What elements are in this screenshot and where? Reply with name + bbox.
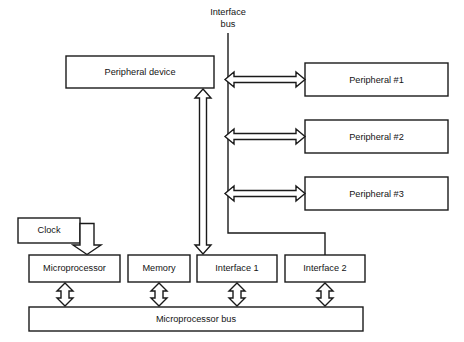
system-block-diagram: Interface bus Peripheral device Peripher… <box>0 0 464 342</box>
arrow-memory-to-bus <box>151 283 167 306</box>
label-memory: Memory <box>142 263 176 273</box>
label-peripheral-device: Peripheral device <box>105 67 176 77</box>
label-peripheral-3: Peripheral #3 <box>349 189 404 199</box>
arrow-peripheral-device-to-interface-1 <box>195 89 211 254</box>
label-peripheral-1: Peripheral #1 <box>349 75 404 85</box>
arrow-interface-1-to-bus <box>229 283 245 306</box>
interface-bus-label-line1: Interface <box>210 7 246 17</box>
label-clock: Clock <box>38 225 61 235</box>
label-interface-1: Interface 1 <box>215 263 258 273</box>
arrow-bus-to-peripheral-1 <box>225 72 305 87</box>
label-microprocessor-bus: Microprocessor bus <box>156 314 237 324</box>
arrow-bus-to-peripheral-3 <box>225 186 305 201</box>
label-microprocessor: Microprocessor <box>43 263 106 273</box>
arrow-microprocessor-to-bus <box>57 283 73 306</box>
label-peripheral-2: Peripheral #2 <box>349 132 404 142</box>
arrow-bus-to-peripheral-2 <box>225 129 305 144</box>
label-interface-2: Interface 2 <box>303 263 346 273</box>
interface-bus-label-line2: bus <box>221 19 236 29</box>
arrow-interface-2-to-bus <box>317 283 333 306</box>
block-diagram-canvas: Interface bus Peripheral device Peripher… <box>0 0 464 342</box>
